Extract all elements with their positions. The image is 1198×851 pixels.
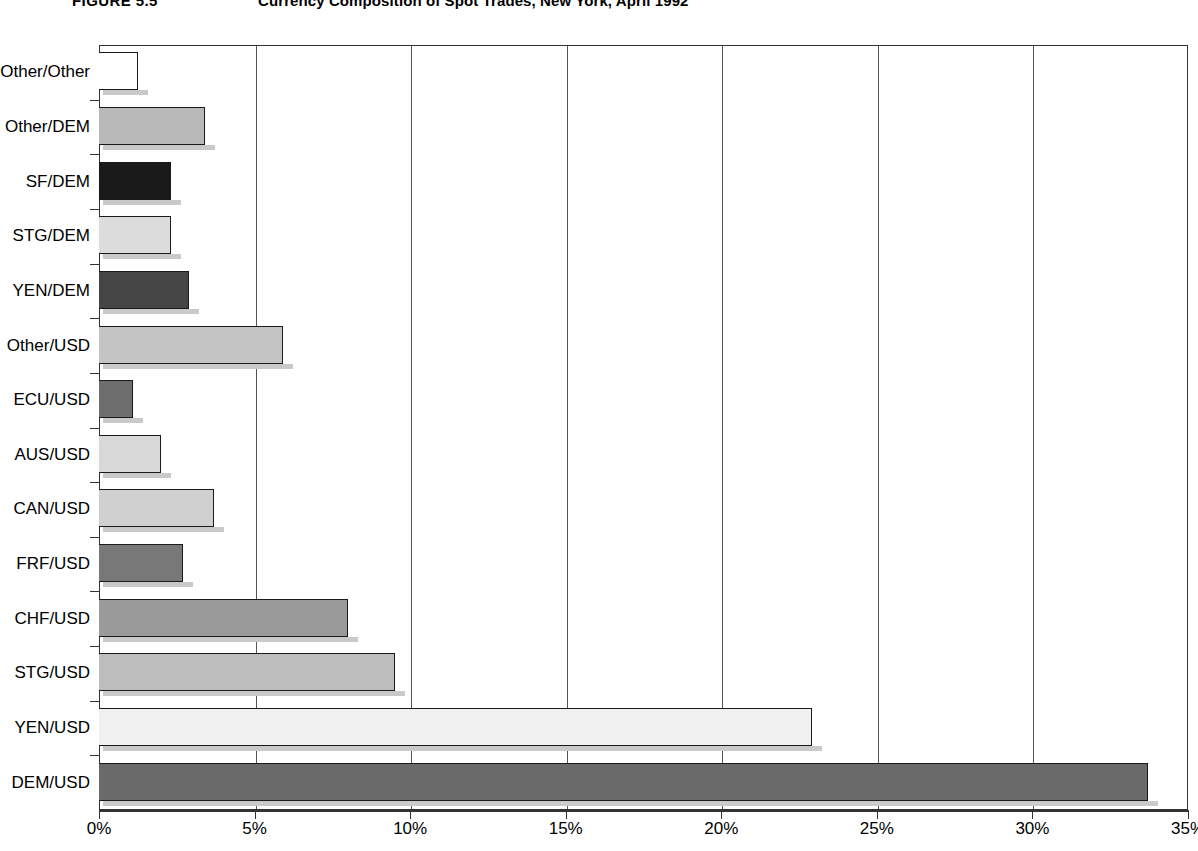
y-axis-label-chf-usd: CHF/USD xyxy=(14,610,90,627)
y-axis-label-other-other: Other/Other xyxy=(0,63,90,80)
x-axis-tick xyxy=(1032,810,1033,819)
y-axis-label-can-usd: CAN/USD xyxy=(13,500,90,517)
y-axis-label-aus-usd: AUS/USD xyxy=(14,446,90,463)
y-axis-label-stg-dem: STG/DEM xyxy=(13,227,90,244)
y-axis-label-stg-usd: STG/USD xyxy=(14,664,90,681)
bar-dem-usd[interactable] xyxy=(99,763,1148,801)
x-axis-line xyxy=(99,810,1189,812)
y-axis-label-dem-usd: DEM/USD xyxy=(12,774,90,791)
x-axis-label: 30% xyxy=(1015,820,1049,838)
bar-shadow xyxy=(103,746,822,751)
y-axis-tick xyxy=(90,482,100,483)
y-axis-label-sf-dem: SF/DEM xyxy=(26,173,90,190)
gridline-10% xyxy=(411,46,412,809)
x-axis-label: 35% xyxy=(1171,820,1198,838)
bar-shadow xyxy=(103,527,224,532)
y-axis-label-yen-dem: YEN/DEM xyxy=(13,282,90,299)
bar-yen-dem[interactable] xyxy=(99,271,189,309)
x-axis-tick xyxy=(99,810,100,819)
y-axis-label-yen-usd: YEN/USD xyxy=(14,719,90,736)
bar-shadow xyxy=(103,90,148,95)
x-axis-tick xyxy=(877,810,878,819)
x-axis-tick xyxy=(721,810,722,819)
bar-shadow xyxy=(103,473,171,478)
x-axis-label: 0% xyxy=(87,820,112,838)
y-axis-label-other-dem: Other/DEM xyxy=(5,118,90,135)
y-axis-tick xyxy=(90,318,100,319)
gridline-15% xyxy=(567,46,568,809)
y-axis-tick xyxy=(90,209,100,210)
bar-shadow xyxy=(103,691,405,696)
y-axis-tick xyxy=(90,646,100,647)
x-axis-tick xyxy=(255,810,256,819)
bar-shadow xyxy=(103,254,181,259)
y-axis-label-frf-usd: FRF/USD xyxy=(16,555,90,572)
x-axis-label: 25% xyxy=(860,820,894,838)
bar-shadow xyxy=(103,309,199,314)
y-axis-tick xyxy=(90,264,100,265)
bar-shadow xyxy=(103,200,181,205)
gridline-20% xyxy=(722,46,723,809)
y-axis-label-ecu-usd: ECU/USD xyxy=(13,391,90,408)
y-axis-tick xyxy=(90,591,100,592)
bar-shadow xyxy=(103,801,1158,806)
bar-frf-usd[interactable] xyxy=(99,544,183,582)
bar-shadow xyxy=(103,364,293,369)
bar-yen-usd[interactable] xyxy=(99,708,812,746)
y-axis-tick xyxy=(90,537,100,538)
bar-ecu-usd[interactable] xyxy=(99,380,133,418)
y-axis-tick xyxy=(90,154,100,155)
bar-shadow xyxy=(103,637,358,642)
x-axis-label: 10% xyxy=(393,820,427,838)
y-axis-tick xyxy=(90,755,100,756)
bar-other-usd[interactable] xyxy=(99,326,283,364)
bar-aus-usd[interactable] xyxy=(99,435,161,473)
x-axis-label: 20% xyxy=(704,820,738,838)
bar-other-dem[interactable] xyxy=(99,107,205,145)
y-axis-tick xyxy=(90,428,100,429)
bar-can-usd[interactable] xyxy=(99,489,214,527)
bar-stg-dem[interactable] xyxy=(99,216,171,254)
x-axis-label: 5% xyxy=(242,820,267,838)
y-axis-tick xyxy=(90,100,100,101)
bar-other-other[interactable] xyxy=(99,52,138,90)
y-axis-label-other-usd: Other/USD xyxy=(7,337,90,354)
y-axis-tick xyxy=(90,701,100,702)
gridline-25% xyxy=(878,46,879,809)
x-axis-tick xyxy=(566,810,567,819)
bar-shadow xyxy=(103,418,143,423)
bar-stg-usd[interactable] xyxy=(99,653,395,691)
bar-chart: 0%5%10%15%20%25%30%35%Other/OtherOther/D… xyxy=(0,0,1198,851)
y-axis-tick xyxy=(90,373,100,374)
x-axis-tick xyxy=(410,810,411,819)
x-axis-label: 15% xyxy=(549,820,583,838)
bar-shadow xyxy=(103,145,215,150)
gridline-30% xyxy=(1033,46,1034,809)
bar-sf-dem[interactable] xyxy=(99,162,171,200)
bar-shadow xyxy=(103,582,193,587)
bar-chf-usd[interactable] xyxy=(99,599,348,637)
x-axis-tick xyxy=(1188,810,1189,819)
